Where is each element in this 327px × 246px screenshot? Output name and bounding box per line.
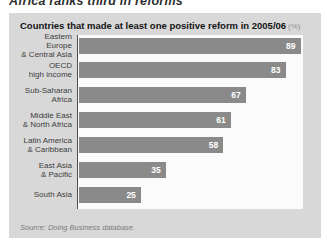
bar-zone: 25 — [79, 184, 141, 209]
page-title-text: Africa ranks third in reforms — [9, 0, 319, 8]
bar-zone: 83 — [79, 60, 286, 85]
page-title: Africa ranks third in reforms — [9, 0, 319, 10]
chart-title-text: Countries that made at least one positiv… — [20, 20, 286, 31]
bar: 35 — [79, 162, 166, 178]
category-label: Sub-SaharanAfrica — [20, 87, 77, 103]
chart-panel: Countries that made at least one positiv… — [9, 13, 321, 238]
bar-zone: 61 — [79, 110, 231, 135]
category-label: Middle East& North Africa — [20, 112, 77, 128]
chart-row: Latin America& Caribbean 58 — [20, 134, 321, 159]
bar-value-label: 58 — [209, 140, 223, 150]
category-label: East Asia& Pacific — [20, 162, 77, 178]
category-label: OECDhigh income — [20, 62, 77, 78]
bar: 61 — [79, 112, 231, 128]
bar: 83 — [79, 62, 286, 78]
category-label: Latin America& Caribbean — [20, 137, 77, 153]
chart-title-unit: (%) — [288, 22, 300, 31]
category-label: South Asia — [20, 187, 77, 203]
bar: 58 — [79, 137, 224, 153]
bar-value-label: 67 — [231, 90, 245, 100]
bar-zone: 58 — [79, 134, 224, 159]
chart-row: Eastern Europe& Central Asia 89 — [20, 35, 321, 60]
chart-row: OECDhigh income 83 — [20, 60, 321, 85]
bar: 67 — [79, 87, 246, 103]
chart-row: Sub-SaharanAfrica 67 — [20, 85, 321, 110]
bar-zone: 35 — [79, 159, 166, 184]
chart-area: Eastern Europe& Central Asia 89 OECDhigh… — [20, 35, 321, 209]
figure: Africa ranks third in reforms Countries … — [0, 0, 327, 246]
chart-row: South Asia 25 — [20, 184, 321, 209]
chart-row: East Asia& Pacific 35 — [20, 159, 321, 184]
bar-value-label: 61 — [216, 115, 230, 125]
bar-value-label: 89 — [286, 41, 300, 51]
category-label: Eastern Europe& Central Asia — [20, 38, 77, 54]
bar-zone: 89 — [79, 35, 301, 60]
bar-value-label: 25 — [126, 190, 140, 200]
bar: 25 — [79, 187, 141, 203]
bar-value-label: 83 — [271, 65, 285, 75]
bar-zone: 67 — [79, 85, 246, 110]
bar-value-label: 35 — [151, 165, 165, 175]
bar: 89 — [79, 38, 301, 54]
source-note: Source: Doing Business database. — [20, 223, 321, 232]
chart-rows: Eastern Europe& Central Asia 89 OECDhigh… — [20, 35, 321, 209]
chart-row: Middle East& North Africa 61 — [20, 110, 321, 135]
